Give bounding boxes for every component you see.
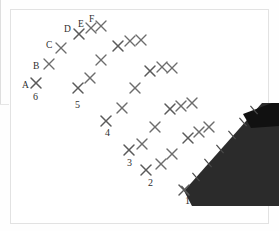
control-point-marker <box>167 149 177 159</box>
control-point-marker <box>179 185 189 195</box>
control-point-marker <box>145 66 155 76</box>
control-point-marker <box>136 35 146 45</box>
control-point-marker <box>204 122 214 132</box>
row-label-4: 4 <box>105 128 110 138</box>
control-point-marker <box>156 159 166 169</box>
control-point-marker <box>74 29 84 39</box>
control-point-marker <box>176 101 186 111</box>
control-point-marker <box>167 63 177 73</box>
control-point-marker <box>86 23 96 33</box>
figure-canvas: ABCDEF123456 <box>0 0 279 231</box>
row-label-5: 5 <box>75 100 80 110</box>
control-point-marker <box>44 59 54 69</box>
control-point-marker <box>183 133 193 143</box>
control-point-marker <box>150 122 160 132</box>
control-point-marker <box>194 127 204 137</box>
control-point-marker <box>96 55 106 65</box>
control-point-marker <box>130 83 140 93</box>
column-label-A: A <box>22 81 29 91</box>
control-point-marker <box>124 145 134 155</box>
row-label-3: 3 <box>127 158 132 168</box>
control-point-marker <box>101 116 111 126</box>
column-label-C: C <box>46 41 52 51</box>
control-point-markers-layer <box>0 0 279 231</box>
column-label-B: B <box>33 62 39 72</box>
control-point-marker <box>31 78 41 88</box>
control-point-marker <box>117 103 127 113</box>
control-point-marker <box>125 36 135 46</box>
row-label-2: 2 <box>148 178 153 188</box>
column-label-F: F <box>89 15 94 25</box>
control-point-marker <box>187 98 197 108</box>
control-point-marker <box>96 21 106 31</box>
control-point-marker <box>73 83 83 93</box>
control-point-marker <box>137 139 147 149</box>
control-point-marker <box>165 104 175 114</box>
control-point-marker <box>85 73 95 83</box>
control-point-marker <box>56 43 66 53</box>
control-point-marker <box>113 41 123 51</box>
row-label-6: 6 <box>33 92 38 102</box>
control-point-marker <box>141 165 151 175</box>
control-point-marker <box>157 62 167 72</box>
row-label-1: 1 <box>185 196 190 206</box>
column-label-D: D <box>64 25 71 35</box>
column-label-E: E <box>78 20 84 30</box>
